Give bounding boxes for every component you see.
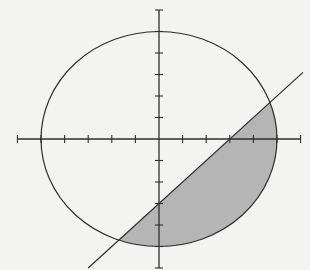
axes [17, 10, 300, 268]
shaded-area [119, 102, 277, 246]
graph-canvas [0, 0, 310, 270]
shaded-region [119, 102, 277, 246]
coordinate-plane-figure [0, 0, 310, 270]
